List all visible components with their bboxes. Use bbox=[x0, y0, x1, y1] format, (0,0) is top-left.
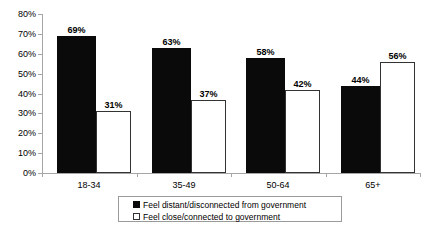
x-tick-mark bbox=[42, 173, 43, 177]
x-category-label-18-34: 18-34 bbox=[77, 180, 100, 190]
y-tick-label: 80% bbox=[18, 10, 36, 19]
bar-value-label: 56% bbox=[388, 51, 406, 61]
y-tick-mark bbox=[38, 133, 42, 134]
x-tick-mark bbox=[420, 173, 421, 177]
plot-area: 0% 10% 20% 30% 40% 50% 60% 70% bbox=[42, 14, 420, 173]
bar-distant-65plus[interactable]: 44% bbox=[341, 86, 380, 174]
y-tick-mark bbox=[38, 153, 42, 154]
y-tick-label: 30% bbox=[18, 109, 36, 118]
y-tick-label: 20% bbox=[18, 129, 36, 138]
y-tick-label: 0% bbox=[23, 169, 36, 178]
bar-chart: 0% 10% 20% 30% 40% 50% 60% 70% bbox=[0, 0, 427, 229]
legend-item-close[interactable]: Feel close/connected to government bbox=[133, 211, 341, 222]
y-tick-label: 70% bbox=[18, 29, 36, 38]
legend-swatch-light-icon bbox=[133, 213, 140, 220]
bar-close-35-49[interactable]: 37% bbox=[191, 100, 226, 174]
x-tick-mark bbox=[137, 173, 138, 177]
y-tick-label: 40% bbox=[18, 89, 36, 98]
chart-legend: Feel distant/disconnected from governmen… bbox=[118, 196, 342, 222]
y-tick-mark bbox=[38, 113, 42, 114]
legend-label: Feel close/connected to government bbox=[143, 212, 280, 222]
bar-value-label: 69% bbox=[67, 25, 85, 35]
bar-value-label: 63% bbox=[162, 37, 180, 47]
y-tick-label: 50% bbox=[18, 69, 36, 78]
bar-value-label: 42% bbox=[293, 79, 311, 89]
bar-value-label: 31% bbox=[104, 100, 122, 110]
x-tick-mark bbox=[326, 173, 327, 177]
bar-close-50-64[interactable]: 42% bbox=[285, 90, 320, 174]
bar-close-65plus[interactable]: 56% bbox=[380, 62, 415, 173]
legend-item-distant[interactable]: Feel distant/disconnected from governmen… bbox=[133, 199, 341, 210]
y-tick-mark bbox=[38, 34, 42, 35]
legend-swatch-dark-icon bbox=[133, 201, 140, 208]
bar-close-18-34[interactable]: 31% bbox=[96, 111, 131, 173]
y-tick-label: 60% bbox=[18, 49, 36, 58]
x-category-label-50-64: 50-64 bbox=[266, 180, 289, 190]
bar-distant-50-64[interactable]: 58% bbox=[246, 58, 285, 173]
y-tick-mark bbox=[38, 14, 42, 15]
bar-distant-18-34[interactable]: 69% bbox=[57, 36, 96, 173]
x-category-label-35-49: 35-49 bbox=[172, 180, 195, 190]
bar-value-label: 37% bbox=[199, 89, 217, 99]
y-tick-mark bbox=[38, 74, 42, 75]
bar-value-label: 44% bbox=[351, 75, 369, 85]
y-tick-mark bbox=[38, 54, 42, 55]
bar-distant-35-49[interactable]: 63% bbox=[152, 48, 191, 173]
y-tick-mark bbox=[38, 94, 42, 95]
y-tick-label: 10% bbox=[18, 149, 36, 158]
bar-value-label: 58% bbox=[256, 47, 274, 57]
legend-label: Feel distant/disconnected from governmen… bbox=[143, 200, 306, 210]
x-category-label-65plus: 65+ bbox=[365, 180, 380, 190]
y-axis-line bbox=[42, 14, 43, 173]
x-tick-mark bbox=[231, 173, 232, 177]
